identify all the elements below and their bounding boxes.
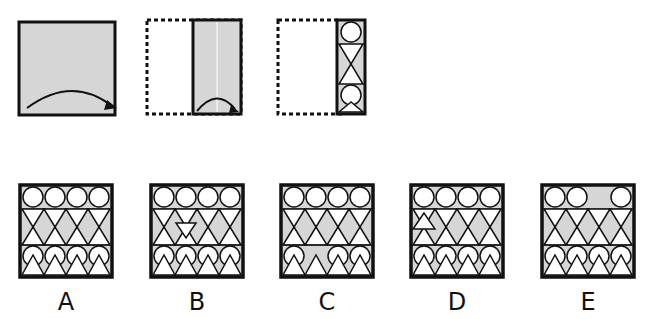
- fold-step-1: [17, 20, 119, 118]
- fold-step-3: [275, 17, 375, 117]
- option-figure-c[interactable]: [279, 183, 375, 279]
- option-label-a[interactable]: A: [18, 288, 114, 316]
- option-figure-d[interactable]: [409, 183, 505, 279]
- fold-step-2: [145, 17, 245, 117]
- option-figure-a[interactable]: [18, 183, 114, 279]
- option-label-e[interactable]: E: [540, 288, 636, 316]
- option-label-b[interactable]: B: [149, 288, 245, 316]
- option-label-c[interactable]: C: [279, 288, 375, 316]
- option-label-d[interactable]: D: [409, 288, 505, 316]
- option-figure-b[interactable]: [149, 183, 245, 279]
- option-figure-e[interactable]: [540, 183, 636, 279]
